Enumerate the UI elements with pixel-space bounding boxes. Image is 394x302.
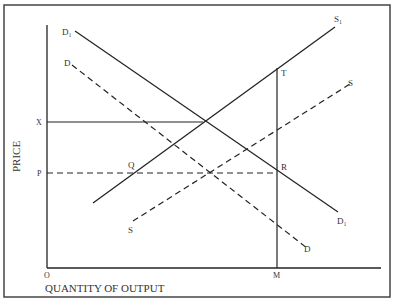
label-p-price: P bbox=[37, 169, 42, 178]
y-axis-title: PRICE bbox=[10, 141, 22, 172]
label-m: M bbox=[273, 271, 280, 280]
supply-demand-diagram: D₁ D S₁ S T X Q P R S D₁ D M O QUANTITY … bbox=[0, 0, 394, 302]
label-d-end: D bbox=[304, 244, 311, 254]
label-s1: S₁ bbox=[334, 14, 342, 24]
label-t: T bbox=[281, 68, 287, 78]
label-s-start: S bbox=[128, 225, 133, 235]
label-d1-end: D₁ bbox=[337, 216, 347, 226]
label-d-start: D bbox=[64, 58, 71, 68]
x-axis-title: QUANTITY OF OUTPUT bbox=[45, 282, 165, 294]
label-x-price: X bbox=[36, 118, 42, 127]
label-q: Q bbox=[128, 160, 135, 170]
demand-curve-d bbox=[72, 65, 307, 248]
label-r: R bbox=[281, 162, 287, 172]
frame-border bbox=[4, 5, 390, 297]
label-origin: O bbox=[44, 271, 50, 280]
label-d1-start: D₁ bbox=[62, 27, 72, 37]
label-s-end: S bbox=[348, 78, 353, 88]
supply-curve-s bbox=[133, 84, 350, 221]
supply-curve-s1 bbox=[93, 27, 335, 203]
